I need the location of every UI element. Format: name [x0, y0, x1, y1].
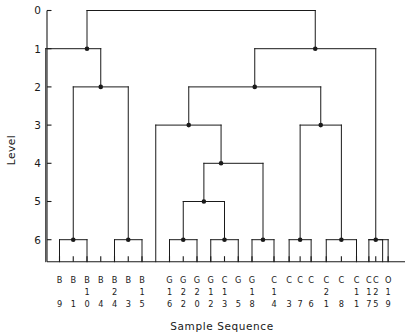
- y-tick-labels: 0123456: [34, 4, 41, 245]
- leaf-label-ones: 3: [126, 299, 131, 309]
- leaf-label-ones: 4: [271, 299, 276, 309]
- merge-node-dot: [252, 85, 257, 90]
- merge-node-dot: [298, 237, 303, 242]
- leaf-label: C11: [354, 275, 360, 309]
- leaf-label: C3: [286, 275, 292, 309]
- leaf-label-letter: C: [297, 275, 303, 285]
- leaf-label: G22: [180, 275, 186, 309]
- merge-node-dot: [219, 161, 224, 166]
- leaf-label: C17: [366, 275, 372, 309]
- merge-node-dot: [318, 123, 323, 128]
- y-tick-label: 4: [34, 157, 41, 169]
- merge-node-dot: [313, 46, 318, 51]
- leaf-label-ones: 5: [236, 299, 241, 309]
- leaf-label-tens: 1: [386, 287, 391, 297]
- y-axis: [47, 11, 405, 262]
- leaf-label: C7: [297, 275, 303, 309]
- leaf-label-letter: B: [125, 275, 131, 285]
- leaf-label-tens: 1: [271, 287, 276, 297]
- leaf-label: C21: [323, 275, 329, 309]
- leaf-label-letter: C: [323, 275, 329, 285]
- leaf-label-tens: 1: [84, 287, 89, 297]
- merge-node-dot: [85, 46, 90, 51]
- leaf-label-letter: C: [373, 275, 379, 285]
- leaf-label-tens: 2: [181, 287, 186, 297]
- merge-node-dot: [98, 85, 103, 90]
- leaf-label: B1: [70, 275, 76, 309]
- leaf-label-tens: 2: [112, 287, 117, 297]
- leaf-label: B24: [112, 275, 118, 309]
- y-tick-label: 3: [34, 119, 41, 131]
- leaf-label-letter: G: [166, 275, 172, 285]
- leaf-label-letter: G: [208, 275, 214, 285]
- leaf-label: C8: [339, 275, 345, 309]
- y-tick-label: 1: [34, 43, 41, 55]
- leaf-label-ones: 1: [354, 299, 359, 309]
- leaf-label-letter: G: [235, 275, 241, 285]
- leaf-label-letter: B: [139, 275, 145, 285]
- y-tick-label: 5: [34, 195, 41, 207]
- leaf-label-letter: C: [222, 275, 228, 285]
- tree-branches: [46, 11, 388, 262]
- leaf-label: O19: [385, 275, 391, 309]
- merge-node-dot: [373, 237, 378, 242]
- leaf-label-ones: 4: [98, 299, 103, 309]
- leaf-label-ones: 2: [208, 299, 213, 309]
- leaf-label: C13: [222, 275, 228, 309]
- leaf-label-ones: 3: [287, 299, 292, 309]
- leaf-label: G20: [194, 275, 200, 309]
- leaf-label-tens: 1: [366, 287, 371, 297]
- leaf-label: G18: [249, 275, 255, 309]
- leaf-label-letter: C: [271, 275, 277, 285]
- dendrogram-figure: 0123456 B9B1B10B4B24B3B15G16G22G20G12C13…: [0, 0, 417, 336]
- leaf-label-letter: C: [354, 275, 360, 285]
- merge-node-dot: [222, 237, 227, 242]
- leaf-label-ones: 6: [309, 299, 314, 309]
- leaf-label: G12: [208, 275, 214, 309]
- merge-node-dot: [126, 237, 131, 242]
- y-tick-label: 2: [34, 81, 41, 93]
- leaf-label-ones: 3: [222, 299, 227, 309]
- leaf-label-ones: 9: [386, 299, 391, 309]
- leaf-label-letter: B: [98, 275, 104, 285]
- leaf-label-ones: 6: [167, 299, 172, 309]
- leaf-label: C6: [308, 275, 314, 309]
- leaf-label-letter: G: [194, 275, 200, 285]
- y-axis-title: Level: [5, 135, 17, 166]
- leaf-label-ones: 2: [181, 299, 186, 309]
- leaf-label-ones: 0: [84, 299, 89, 309]
- merge-node-dot: [261, 237, 266, 242]
- leaf-label: B10: [84, 275, 90, 309]
- leaf-label: B3: [125, 275, 131, 309]
- leaf-label-ones: 5: [373, 299, 378, 309]
- leaf-label-ones: 7: [366, 299, 371, 309]
- leaf-label-letter: B: [70, 275, 76, 285]
- dendrogram-plot: 0123456 B9B1B10B4B24B3B15G16G22G20G12C13…: [0, 0, 417, 336]
- leaf-label-tens: 1: [222, 287, 227, 297]
- leaf-label-letter: C: [286, 275, 292, 285]
- merge-node-dot: [186, 123, 191, 128]
- leaf-label: B9: [57, 275, 63, 309]
- leaf-label-letter: C: [366, 275, 372, 285]
- leaf-label-tens: 2: [373, 287, 378, 297]
- x-tick-labels: B9B1B10B4B24B3B15G16G22G20G12C13G5G18C14…: [57, 275, 392, 309]
- leaf-label-ones: 8: [339, 299, 344, 309]
- y-tick-label: 6: [34, 234, 41, 246]
- leaf-label-ones: 0: [194, 299, 199, 309]
- merge-node-dot: [71, 237, 76, 242]
- leaf-label-tens: 2: [324, 287, 329, 297]
- leaf-label-ones: 8: [249, 299, 254, 309]
- leaf-label-tens: 1: [139, 287, 144, 297]
- leaf-label-ones: 7: [298, 299, 303, 309]
- leaf-label-tens: 1: [249, 287, 254, 297]
- leaf-label: C25: [373, 275, 379, 309]
- leaf-label-letter: C: [308, 275, 314, 285]
- leaf-label-tens: 1: [208, 287, 213, 297]
- leaf-label-tens: 1: [167, 287, 172, 297]
- leaf-label-letter: G: [180, 275, 186, 285]
- leaf-label-tens: 2: [194, 287, 199, 297]
- leaf-label-letter: B: [57, 275, 63, 285]
- merge-node-dot: [339, 237, 344, 242]
- leaf-label-letter: B: [84, 275, 90, 285]
- leaf-label: G5: [235, 275, 241, 309]
